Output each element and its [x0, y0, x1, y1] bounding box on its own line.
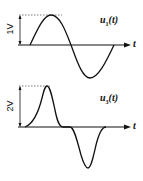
- top-axis-arrow-icon: [124, 43, 131, 48]
- bottom-amplitude-label: 2V: [5, 100, 15, 111]
- bottom-amplitude-arrow-up-icon: [19, 86, 22, 90]
- top-signal-arg: (t): [109, 14, 118, 25]
- bottom-axis-t-label: t: [133, 120, 136, 131]
- waveform-diagram: [0, 0, 143, 181]
- top-amplitude-label: 1V: [5, 23, 15, 34]
- bottom-signal-arg: (t): [109, 92, 118, 103]
- top-signal-label: u1(t): [100, 14, 118, 27]
- top-amplitude-arrow-up-icon: [19, 15, 22, 19]
- bottom-axis-arrow-icon: [124, 125, 131, 130]
- top-axis-t-label: t: [133, 38, 136, 49]
- bottom-signal-label: u3(t): [100, 92, 118, 105]
